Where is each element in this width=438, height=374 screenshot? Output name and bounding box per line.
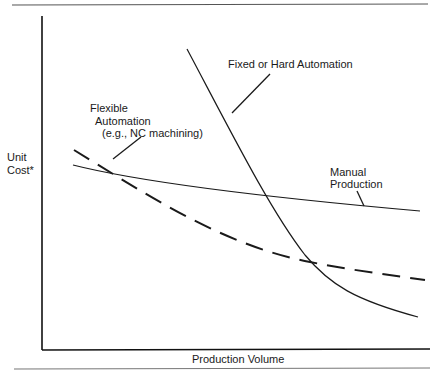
x-axis-label: Production Volume	[192, 353, 284, 366]
flexible-automation-label-line3: (e.g., NC machining)	[102, 127, 203, 140]
y-axis-label-line2: Cost*	[7, 164, 34, 177]
fixed-leader-line	[232, 74, 270, 113]
y-axis-label-line1: Unit	[7, 151, 27, 164]
manual-production-label-line2: Production	[330, 178, 383, 191]
flexible-automation-curve	[74, 150, 425, 280]
flex-leader-line	[113, 137, 141, 159]
top-rule	[12, 4, 428, 5]
fixed-automation-label: Fixed or Hard Automation	[228, 58, 353, 71]
manual-leader-line	[357, 191, 364, 206]
x-axis	[42, 349, 430, 350]
fixed-automation-curve	[187, 49, 418, 317]
flexible-automation-label-line1: Flexible	[90, 102, 128, 115]
bottom-rule	[14, 368, 430, 369]
